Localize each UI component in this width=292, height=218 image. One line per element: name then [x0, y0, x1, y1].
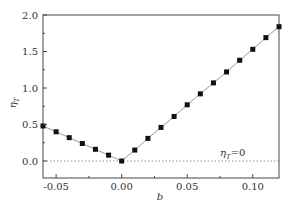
- chart: -0.050.000.050.10 0.00.51.01.52.0 b ηT η…: [0, 0, 292, 218]
- data-point-marker: [132, 148, 137, 153]
- data-point-marker: [159, 125, 164, 130]
- y-tick-label: 0.0: [22, 156, 38, 167]
- x-tick-label: -0.05: [43, 181, 69, 192]
- y-tick-label: 0.5: [22, 119, 38, 130]
- data-point-marker: [263, 35, 268, 40]
- y-axis-ticks: 0.00.51.01.52.0: [22, 10, 47, 167]
- data-point-marker: [198, 91, 203, 96]
- x-axis-label: b: [157, 191, 163, 202]
- x-tick-label: 0.05: [176, 181, 198, 192]
- data-point-marker: [277, 24, 282, 29]
- reference-line-annotation: ηT=0: [220, 147, 245, 161]
- data-point-marker: [54, 129, 59, 134]
- data-series: [41, 24, 282, 163]
- x-tick-label: 0.00: [111, 181, 133, 192]
- data-point-marker: [67, 135, 72, 140]
- data-point-marker: [224, 69, 229, 74]
- y-tick-label: 1.5: [22, 46, 38, 57]
- x-tick-label: 0.10: [242, 181, 264, 192]
- data-point-marker: [106, 153, 111, 158]
- data-point-marker: [211, 80, 216, 85]
- data-point-marker: [250, 47, 255, 52]
- data-point-marker: [80, 141, 85, 146]
- data-point-marker: [145, 136, 150, 141]
- data-point-marker: [93, 147, 98, 152]
- x-axis-ticks: -0.050.000.050.10: [43, 174, 264, 192]
- data-point-marker: [185, 102, 190, 107]
- series-line: [43, 27, 279, 161]
- data-point-marker: [237, 58, 242, 63]
- data-point-marker: [119, 159, 124, 164]
- y-axis-label: ηT: [7, 96, 21, 108]
- y-tick-label: 1.0: [22, 83, 38, 94]
- data-point-marker: [172, 114, 177, 119]
- y-tick-label: 2.0: [22, 10, 38, 21]
